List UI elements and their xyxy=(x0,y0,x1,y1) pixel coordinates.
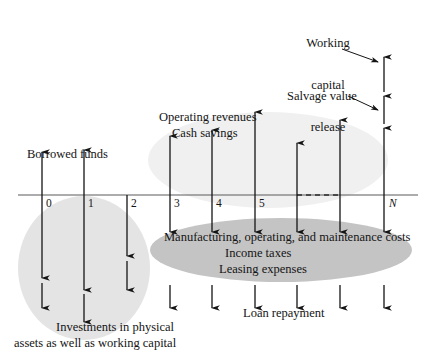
caption-salvage-value: Salvage value xyxy=(287,89,357,103)
caption-loan-repayment: Loan repayment xyxy=(243,306,325,320)
caption-investments-line2: assets as well as working capital xyxy=(14,336,176,350)
tick-label-n: N xyxy=(389,197,397,209)
caption-investments-line1: Investments in physical xyxy=(56,320,174,334)
caption-income-taxes: Income taxes xyxy=(225,246,291,260)
caption-borrowed-funds: Borrowed funds xyxy=(27,147,108,161)
caption-operating-revenues: Operating revenues xyxy=(159,110,257,124)
tick-label-1: 1 xyxy=(88,197,94,209)
cash-flow-diagram: 0 1 2 3 4 5 N Borrowed funds Operating r… xyxy=(0,0,430,354)
tick-label-5: 5 xyxy=(259,197,265,209)
caption-cash-savings: Cash savings xyxy=(172,126,238,140)
caption-working-capital-release-line3: release xyxy=(290,120,366,134)
caption-working-capital-release-line1: Working xyxy=(290,36,366,50)
tick-label-3: 3 xyxy=(174,197,180,209)
caption-manufacturing-costs: Manufacturing, operating, and maintenanc… xyxy=(164,230,410,244)
caption-leasing-expenses: Leasing expenses xyxy=(219,262,307,276)
caption-working-capital-release: Working capital release xyxy=(290,8,366,162)
tick-label-4: 4 xyxy=(216,197,222,209)
tick-label-2: 2 xyxy=(131,197,137,209)
tick-label-0: 0 xyxy=(46,197,52,209)
